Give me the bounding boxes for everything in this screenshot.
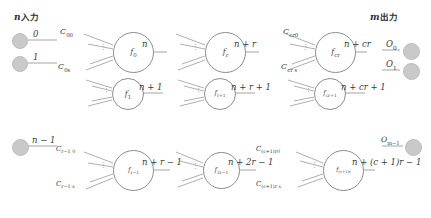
fan-in-dots-fr: ⋮ [192,46,199,49]
fan-in-dots-fc+1r: ⋮ [311,164,318,167]
neuron-fr+1-output: n + r + 1 [231,82,271,92]
input-node-1[interactable] [12,56,28,72]
coef-label-fc+1r-top: C(c+1)r0 [256,145,280,154]
coef-label-fc+1r-bottom: C(c+1)r s [256,180,281,189]
output-header-var: m [370,12,380,22]
neuron-fcr-label: fcr [331,47,340,58]
output-label-m-1: Om−1 [381,135,400,146]
neuron-fr-label: fr [223,47,229,58]
input-label-0: 0 [33,29,38,39]
fan-in-dots-f1: ⋮ [103,88,110,91]
input-node-0[interactable] [12,33,28,49]
fan-in-dots-f0: ⋮ [100,46,107,49]
fan-in-f1 [86,80,112,106]
output-node-m-1[interactable] [405,139,422,156]
fan-in-dots-fr+1: ⋮ [195,88,202,91]
coef-label-fcr-bottom: Ccr s [281,62,297,73]
fan-in-dots-fr-1: ⋮ [100,164,107,167]
output-node-0[interactable] [403,43,420,60]
neuron-f0-label: f0 [130,47,136,58]
coef-label-f0-top: C00 [60,27,73,38]
fan-in-dots-fcr: ⋮ [302,46,309,49]
input-header: n入力 [14,10,39,22]
fan-in-fcr+1 [288,80,314,106]
neuron-fc+1r-label: f(c+1)r [336,166,351,174]
coef-label-f0-bottom: C0s [58,62,70,73]
output-node-1[interactable] [403,63,420,80]
input-header-text: 入力 [21,12,39,22]
coef-label-fr-1-top: Cr−1 0 [56,145,75,154]
neuron-fcr-output: n + cr [344,39,371,49]
fan-in-fr+1 [178,80,204,106]
output-header: m出力 [370,10,398,22]
neuron-fcr+1-label: fcr+1 [323,89,336,98]
coef-label-fcr-top: Ccr0 [283,27,298,38]
neuron-fr+1-label: fr+1 [214,89,225,98]
fan-in-f0 [84,34,113,70]
fan-in-fr [176,34,205,70]
neuron-fcr+1-output: n + cr + 1 [341,82,386,92]
network-diagram: n入力 m出力 0 1 n − 1 O0 O1 Om−1 f0 C00 C0s … [0,0,431,218]
input-node-n-1[interactable] [12,139,29,156]
fan-in-fr-1 [84,152,113,189]
neuron-fr-1-label: fr−1 [128,166,139,175]
neuron-fc+1r-output: n + (c + 1)r − 1 [352,157,421,167]
neuron-fr-1-output: n + r − 1 [142,157,182,167]
input-label-1: 1 [33,52,38,62]
output-header-text: 出力 [380,12,398,22]
neuron-f0-output: n [142,39,147,49]
output-label-1: O1 [386,59,397,71]
neuron-f2r-1-label: f2r−1 [215,166,229,175]
fan-in-fc+1r [296,152,323,187]
neuron-fr-output: n + r [234,39,256,49]
neuron-f1-label: f1 [125,89,131,100]
neuron-f0[interactable]: f0 [113,32,154,73]
neuron-f2r-1-output: n + 2r − 1 [228,157,273,167]
output-label-0: O0 [386,39,397,51]
fan-in-dots-fcr+1: ⋮ [305,88,312,91]
coef-label-fr-1-bottom: Cr−1 s [56,180,75,189]
neuron-f1-output: n + 1 [139,82,162,92]
fan-in-dots-f2r-1: ⋮ [192,165,199,168]
input-label-n-1: n − 1 [32,135,55,145]
